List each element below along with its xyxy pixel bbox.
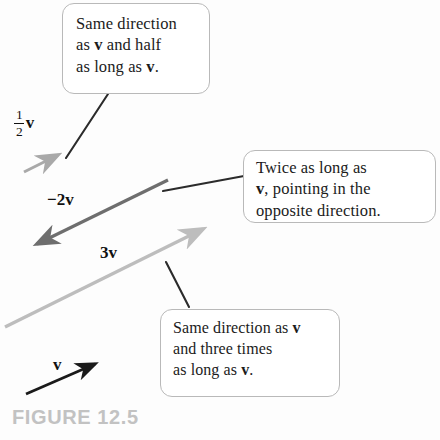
- callout-minus-2v-line-1: Twice as long as: [256, 157, 435, 178]
- callout-minus-2v: Twice as long as v, pointing in the oppo…: [243, 150, 436, 223]
- vector-label-half-v: 1 2 v: [14, 108, 34, 139]
- fraction-one-half: 1 2: [14, 108, 25, 139]
- callout-minus-2v-line-2-post: , pointing in the: [264, 179, 370, 198]
- vector-symbol-v: v: [94, 35, 102, 54]
- vector-scalar-multiple-figure: Same direction as v and half as long as …: [0, 0, 440, 440]
- vector-symbol-v: v: [26, 113, 35, 133]
- vector-symbol-v: v: [146, 57, 154, 76]
- figure-caption: FIGURE 12.5: [12, 406, 139, 429]
- vector-label-v: v: [53, 355, 62, 375]
- callout-three-v-line-1: Same direction as v: [173, 318, 339, 339]
- leader-line-3v: [166, 262, 189, 307]
- callout-minus-2v-line-2: v, pointing in the: [256, 178, 435, 199]
- vector-symbol-v: v: [293, 319, 301, 336]
- callout-half-v-line-3: as long as v.: [76, 56, 209, 77]
- vector-label-minus-2v: −2v: [47, 190, 74, 210]
- vector-label-v-text: v: [53, 355, 62, 374]
- callout-three-v-line-1-pre: Same direction as: [173, 319, 293, 336]
- leader-line-half-v: [66, 94, 108, 158]
- callout-three-v-line-3-pre: as long as: [173, 361, 241, 378]
- callout-half-v-line-2-post: and half: [103, 35, 162, 54]
- callout-minus-2v-line-3: opposite direction.: [256, 200, 435, 221]
- callout-three-v: Same direction as v and three times as l…: [160, 309, 340, 397]
- fraction-numerator: 1: [14, 108, 25, 122]
- fraction-denominator: 2: [14, 125, 25, 139]
- vector-label-minus-2v-text: −2v: [47, 190, 74, 209]
- vector-label-three-v-text: 3v: [100, 243, 117, 262]
- callout-half-v-line-2-pre: as: [76, 35, 94, 54]
- callout-three-v-line-3-post: .: [249, 361, 253, 378]
- callout-half-v-line-3-post: .: [155, 57, 159, 76]
- callout-half-v-line-1: Same direction: [76, 13, 209, 34]
- vector-half-v: [24, 155, 58, 172]
- callout-half-v-line-2: as v and half: [76, 34, 209, 55]
- callout-half-v: Same direction as v and half as long as …: [62, 3, 210, 94]
- callout-half-v-line-3-pre: as long as: [76, 57, 146, 76]
- callout-three-v-line-2: and three times: [173, 339, 339, 360]
- callout-three-v-line-3: as long as v.: [173, 360, 339, 381]
- leader-line-minus-2v: [163, 176, 244, 191]
- vector-label-three-v: 3v: [100, 243, 117, 263]
